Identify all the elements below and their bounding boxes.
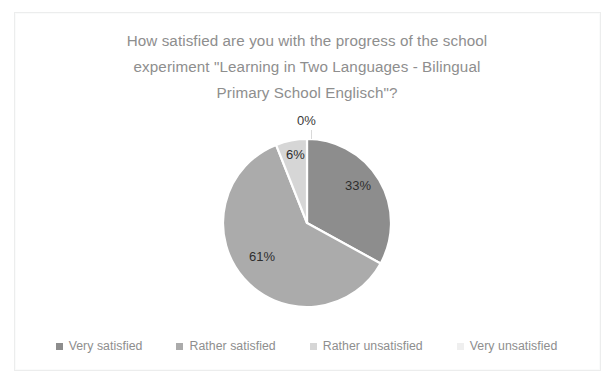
legend-swatch-icon-very-unsatisfied	[457, 343, 464, 350]
pie-svg	[222, 138, 392, 308]
slice-label-very-satisfied: 33%	[345, 178, 371, 193]
chart-legend: Very satisfied Rather satisfied Rather u…	[14, 339, 599, 353]
legend-label-very-unsatisfied: Very unsatisfied	[470, 339, 558, 353]
pie-chart-card: How satisfied are you with the progress …	[0, 0, 614, 385]
legend-swatch-icon-rather-satisfied	[176, 343, 183, 350]
legend-swatch-icon-rather-unsatisfied	[310, 343, 317, 350]
legend-item-rather-satisfied: Rather satisfied	[176, 339, 275, 353]
slice-label-rather-satisfied: 61%	[249, 249, 275, 264]
legend-label-very-satisfied: Very satisfied	[69, 339, 143, 353]
legend-item-rather-unsatisfied: Rather unsatisfied	[310, 339, 423, 353]
leader-line-very-unsatisfied	[311, 130, 312, 139]
legend-item-very-unsatisfied: Very unsatisfied	[457, 339, 558, 353]
chart-title-line-2: experiment "Learning in Two Languages - …	[57, 54, 557, 80]
slice-label-very-unsatisfied: 0%	[297, 113, 316, 128]
chart-title-line-3: Primary School Englisch"?	[57, 80, 557, 106]
legend-label-rather-satisfied: Rather satisfied	[189, 339, 275, 353]
chart-title: How satisfied are you with the progress …	[57, 28, 557, 106]
pie-plot-area	[222, 138, 392, 308]
legend-label-rather-unsatisfied: Rather unsatisfied	[323, 339, 423, 353]
legend-item-very-satisfied: Very satisfied	[56, 339, 143, 353]
legend-swatch-icon-very-satisfied	[56, 343, 63, 350]
pie-slices	[223, 139, 391, 307]
chart-title-line-1: How satisfied are you with the progress …	[57, 28, 557, 54]
slice-label-rather-unsatisfied: 6%	[286, 147, 305, 162]
